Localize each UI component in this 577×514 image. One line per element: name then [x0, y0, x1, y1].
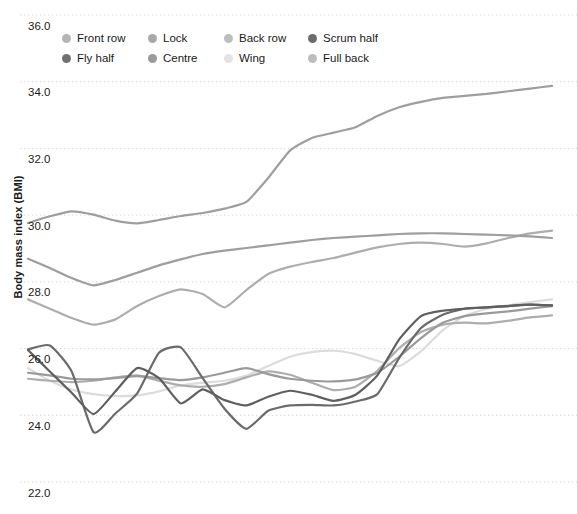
legend-swatch-icon	[308, 34, 317, 43]
plot-canvas	[0, 0, 577, 514]
y-tick-label: 30.0	[28, 221, 50, 233]
y-tick-label: 22.0	[28, 488, 50, 500]
legend-swatch-icon	[148, 54, 157, 63]
y-tick-label: 32.0	[28, 154, 50, 166]
legend-item-back-row[interactable]: Back row	[224, 32, 308, 44]
series-line-lock	[28, 233, 552, 285]
y-tick-label: 28.0	[28, 287, 50, 299]
legend-item-full-back[interactable]: Full back	[308, 52, 378, 64]
legend-item-label: Scrum half	[323, 32, 378, 44]
legend-swatch-icon	[224, 54, 233, 63]
legend-item-label: Fly half	[77, 52, 114, 64]
legend-swatch-icon	[62, 34, 71, 43]
y-tick-label: 24.0	[28, 421, 50, 433]
legend-item-scrum-half[interactable]: Scrum half	[308, 32, 378, 44]
series-line-back-row	[28, 231, 552, 325]
y-tick-label: 36.0	[28, 21, 50, 33]
y-axis-title: Body mass index (BMI)	[12, 137, 24, 337]
legend-item-label: Back row	[239, 32, 286, 44]
legend-item-wing[interactable]: Wing	[224, 52, 308, 64]
legend-item-label: Centre	[163, 52, 198, 64]
bmi-line-chart: 36.034.032.030.028.026.024.022.0 Body ma…	[0, 0, 577, 514]
legend-item-lock[interactable]: Lock	[148, 32, 224, 44]
legend-item-front-row[interactable]: Front row	[62, 32, 148, 44]
y-tick-label: 26.0	[28, 354, 50, 366]
plot-area	[0, 0, 577, 514]
legend-swatch-icon	[308, 54, 317, 63]
legend-swatch-icon	[62, 54, 71, 63]
legend-swatch-icon	[148, 34, 157, 43]
series-line-front-row	[28, 86, 552, 223]
series-line-centre	[28, 306, 552, 381]
chart-legend: Front rowLockBack rowScrum halfFly halfC…	[62, 28, 378, 68]
legend-item-label: Lock	[163, 32, 187, 44]
y-tick-label: 34.0	[28, 87, 50, 99]
legend-item-fly-half[interactable]: Fly half	[62, 52, 148, 64]
legend-swatch-icon	[224, 34, 233, 43]
legend-item-centre[interactable]: Centre	[148, 52, 224, 64]
legend-item-label: Front row	[77, 32, 126, 44]
legend-item-label: Wing	[239, 52, 265, 64]
legend-item-label: Full back	[323, 52, 369, 64]
